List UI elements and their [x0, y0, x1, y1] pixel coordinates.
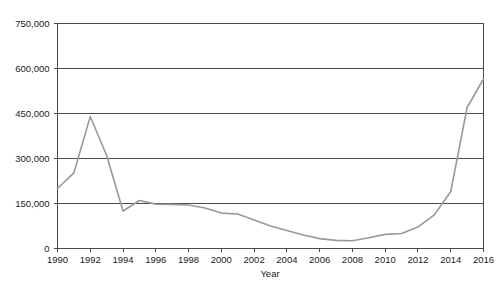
y-tick-label-150000: 150,000	[15, 198, 49, 209]
x-tick-label-2004: 2004	[276, 254, 297, 265]
x-tick-label-2002: 2002	[244, 254, 265, 265]
x-tick-label-1992: 1992	[80, 254, 101, 265]
chart-background	[0, 0, 504, 290]
y-tick-label-450000: 450,000	[15, 108, 49, 119]
x-tick-label-1996: 1996	[145, 254, 166, 265]
y-tick-label-600000: 600,000	[15, 63, 49, 74]
x-tick-label-2012: 2012	[407, 254, 428, 265]
x-tick-label-1990: 1990	[47, 254, 68, 265]
x-tick-label-1994: 1994	[112, 254, 133, 265]
x-tick-label-2000: 2000	[211, 254, 232, 265]
y-tick-label-750000: 750,000	[15, 18, 49, 29]
x-tick-label-2014: 2014	[440, 254, 461, 265]
figure-container: 0150,000300,000450,000600,000750,000 199…	[0, 0, 504, 290]
x-axis-title: Year	[260, 268, 279, 279]
x-tick-label-2008: 2008	[342, 254, 363, 265]
x-tick-label-2006: 2006	[309, 254, 330, 265]
y-tick-label-0: 0	[44, 243, 49, 254]
figure-caption-clipped	[4, 281, 304, 290]
line-chart: 0150,000300,000450,000600,000750,000 199…	[0, 0, 504, 290]
y-tick-label-300000: 300,000	[15, 153, 49, 164]
x-tick-label-2016: 2016	[473, 254, 494, 265]
x-tick-label-2010: 2010	[375, 254, 396, 265]
x-tick-label-1998: 1998	[178, 254, 199, 265]
